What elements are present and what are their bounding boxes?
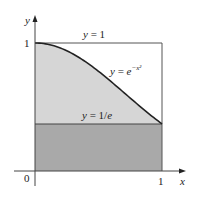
y-tick-1-label: 1 bbox=[24, 37, 30, 49]
origin-label: 0 bbox=[24, 172, 30, 184]
x-axis-arrow-icon bbox=[179, 169, 186, 174]
y-axis-arrow-icon bbox=[33, 15, 38, 22]
y-axis-label: y bbox=[24, 14, 30, 26]
label-y-equals-1: y = 1 bbox=[82, 28, 105, 40]
label-y-equals-1-over-e: y = 1/e bbox=[81, 109, 112, 121]
x-axis-label: x bbox=[179, 175, 185, 187]
x-tick-1-label: 1 bbox=[158, 175, 164, 187]
diagram: y x 0 1 1 y = 1 y = e−x² y = 1/e bbox=[0, 0, 199, 201]
label-curve: y = e−x² bbox=[109, 64, 142, 77]
dark-region bbox=[35, 124, 162, 171]
